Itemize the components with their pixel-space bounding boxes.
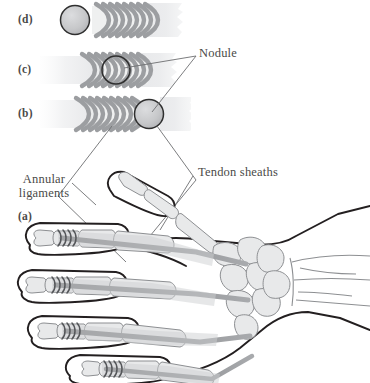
annular-ligaments-line-2: ligaments bbox=[19, 186, 69, 200]
panel-label-a: (a) bbox=[18, 210, 32, 222]
panel-label-d: (d) bbox=[18, 13, 33, 25]
panel-b-illustration bbox=[40, 97, 191, 131]
panel-d-illustration bbox=[61, 3, 186, 37]
caption-fragment-strip bbox=[0, 374, 370, 383]
panel-c-illustration bbox=[40, 53, 179, 87]
panel-b-nodule bbox=[135, 100, 164, 129]
annotation-annular-ligaments: Annular ligaments bbox=[14, 172, 74, 200]
annotation-tendon-sheaths: Tendon sheaths bbox=[198, 165, 278, 180]
panel-label-b: (b) bbox=[18, 107, 33, 119]
panel-d-nodule bbox=[61, 6, 90, 35]
annular-ligaments-line-1: Annular bbox=[23, 172, 65, 186]
annotation-nodule: Nodule bbox=[199, 46, 237, 61]
panel-label-c: (c) bbox=[18, 63, 31, 75]
